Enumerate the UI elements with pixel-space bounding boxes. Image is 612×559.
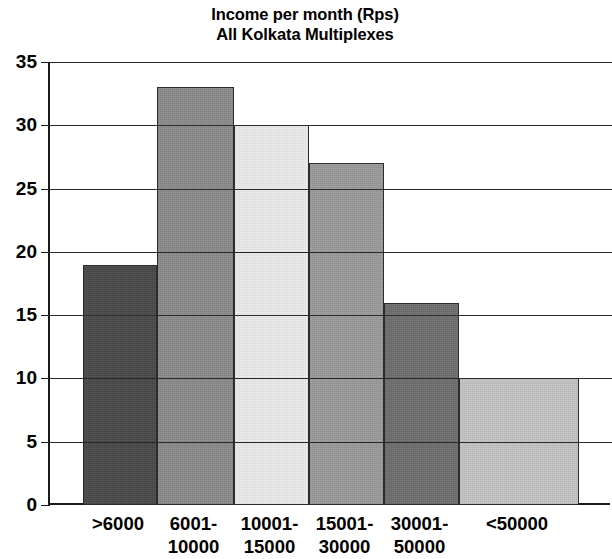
y-axis-tick-label: 10 (1, 368, 37, 387)
y-axis-tick-label: 15 (1, 305, 37, 324)
gridline (50, 189, 612, 190)
chart-title-line-2: All Kolkata Multiplexes (0, 24, 610, 44)
gridline (50, 378, 612, 379)
y-axis-tick (41, 505, 50, 506)
x-axis-label-line: 30001- (382, 512, 457, 535)
y-axis-tick (41, 315, 50, 316)
x-axis-labels: >60006001-1000010001-1500015001-30000300… (48, 512, 610, 559)
bar (309, 163, 384, 505)
gridline (50, 252, 612, 253)
x-axis-category-label: 30001-50000 (382, 512, 457, 558)
y-axis-tick-label: 5 (1, 432, 37, 451)
x-axis-label-line: 10000 (155, 535, 232, 558)
y-axis-tick-label: 0 (1, 495, 37, 514)
x-axis-label-line: <50000 (457, 512, 577, 535)
y-axis-tick-label: 35 (1, 52, 37, 71)
x-axis-category-label: 15001-30000 (307, 512, 382, 558)
y-axis-tick-label: 30 (1, 115, 37, 134)
y-axis-tick (41, 62, 50, 63)
x-axis-label-line: 30000 (307, 535, 382, 558)
x-axis-label-line: >6000 (81, 512, 155, 535)
y-axis-tick (41, 442, 50, 443)
x-axis-label-line: 10001- (232, 512, 307, 535)
y-axis-labels: 35302520151050 (0, 62, 37, 505)
x-axis-label-line: 6001- (155, 512, 232, 535)
y-axis-tick-label: 25 (1, 179, 37, 198)
x-axis-category-label: <50000 (457, 512, 577, 535)
gridline (50, 62, 612, 63)
y-axis-tick (41, 378, 50, 379)
x-axis-label-line: 15001- (307, 512, 382, 535)
y-axis-tick (41, 189, 50, 190)
x-axis-category-label: >6000 (81, 512, 155, 535)
bar (384, 303, 459, 506)
x-axis-label-line: 50000 (382, 535, 457, 558)
gridline (50, 442, 612, 443)
x-axis-label-line: 15000 (232, 535, 307, 558)
bars-layer (50, 62, 612, 505)
gridline (50, 125, 612, 126)
x-axis-category-label: 6001-10000 (155, 512, 232, 558)
y-axis-tick (41, 125, 50, 126)
y-axis-tick-label: 20 (1, 242, 37, 261)
x-axis-category-label: 10001-15000 (232, 512, 307, 558)
gridline (50, 315, 612, 316)
y-axis-tick (41, 252, 50, 253)
bar (83, 265, 157, 505)
chart-title: Income per month (Rps) All Kolkata Multi… (0, 4, 610, 44)
plot-area (48, 62, 610, 505)
chart-title-line-1: Income per month (Rps) (0, 4, 610, 24)
